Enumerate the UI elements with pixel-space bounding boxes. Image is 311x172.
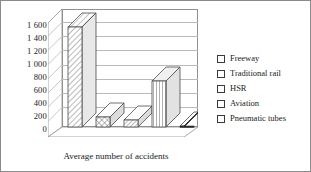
y-tick-label: 400 [34, 99, 47, 108]
bar-aviation [152, 67, 180, 127]
legend-label: Aviation [230, 99, 259, 108]
y-tick-label: 1 200 [27, 47, 47, 56]
legend-label: Freeway [230, 54, 259, 63]
y-axis-tick-labels: 1 600 1 400 1 200 1 000 800 600 400 200 … [1, 1, 47, 141]
bar-traditional-rail [96, 103, 124, 127]
y-tick-label: 800 [34, 73, 47, 82]
y-tick-label: 600 [34, 86, 47, 95]
legend-swatch-icon [217, 55, 225, 63]
y-tick-label: 1 400 [27, 34, 47, 43]
legend-label: HSR [230, 84, 247, 93]
y-tick-label: 0 [43, 125, 47, 134]
legend-item-freeway: Freeway [217, 51, 311, 66]
y-tick-label: 1 000 [27, 60, 47, 69]
legend-swatch-icon [217, 85, 225, 93]
bar-hsr [124, 106, 152, 127]
y-tick-label: 200 [34, 112, 47, 121]
legend-swatch-icon [217, 115, 225, 123]
y-tick-label: 1 600 [27, 21, 47, 30]
x-axis-title: Average number of accidents [1, 151, 231, 161]
legend-item-traditional-rail: Traditional rail [217, 66, 311, 81]
legend-swatch-icon [217, 100, 225, 108]
legend-swatch-icon [217, 70, 225, 78]
chart-figure: 1 600 1 400 1 200 1 000 800 600 400 200 … [0, 0, 311, 172]
chart-legend: Freeway Traditional rail HSR Aviation Pn… [217, 51, 311, 126]
plot-area [48, 9, 198, 137]
bar-pneumatic-tubes [180, 112, 198, 127]
bar-freeway [68, 13, 96, 127]
legend-item-aviation: Aviation [217, 96, 311, 111]
legend-label: Pneumatic tubes [230, 114, 286, 123]
legend-item-pneumatic-tubes: Pneumatic tubes [217, 111, 311, 126]
legend-item-hsr: HSR [217, 81, 311, 96]
bar-series [48, 9, 198, 137]
legend-label: Traditional rail [230, 69, 281, 78]
